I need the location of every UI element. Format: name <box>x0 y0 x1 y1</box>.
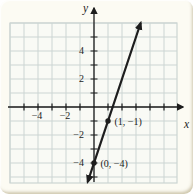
x-axis-label: x <box>183 118 190 130</box>
point-dot <box>91 160 96 165</box>
figure-card: x y −4 −2 4 2 −2 −4 (1, −1) (0, −4) <box>0 0 193 194</box>
y-tick-label-2: −2 <box>73 129 84 140</box>
y-tick-label-0: 4 <box>79 45 84 56</box>
x-tick-label-1: −2 <box>60 110 71 121</box>
point-label-1: (0, −4) <box>101 158 128 170</box>
x-tick-label-0: −4 <box>32 110 43 121</box>
point-dot <box>105 118 110 123</box>
point-label-0: (1, −1) <box>115 116 142 128</box>
line-graph-figure: x y −4 −2 4 2 −2 −4 (1, −1) (0, −4) <box>0 0 193 194</box>
y-axis-label: y <box>82 2 89 15</box>
y-tick-label-3: −4 <box>73 157 84 168</box>
y-tick-label-1: 2 <box>79 73 84 84</box>
